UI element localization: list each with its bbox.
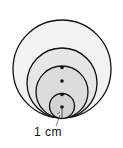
center-dot-3 [60,93,64,97]
radius-label: 1 cm [34,125,62,139]
center-dot-2 [60,79,64,83]
center-dot-1 [60,66,64,70]
